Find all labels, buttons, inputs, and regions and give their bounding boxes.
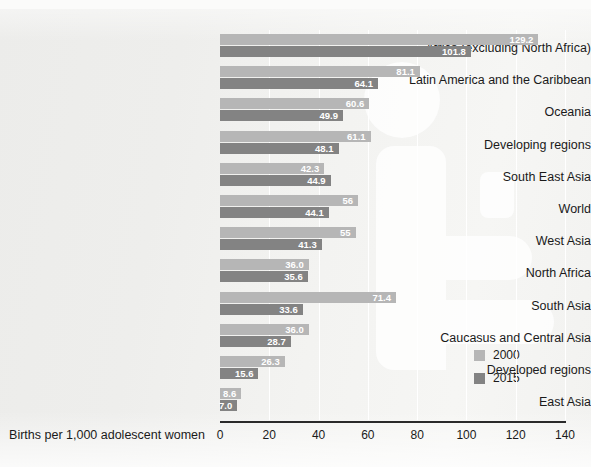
bar-value-label: 44.9 [304, 175, 329, 186]
gridline [466, 30, 467, 420]
x-axis-tick-label: 120 [506, 428, 526, 442]
bar-value-label: 15.6 [232, 368, 257, 379]
bar-value-label: 7.0 [216, 400, 235, 411]
bar-2000 [220, 34, 538, 45]
category-label: West Asia [386, 234, 591, 248]
gridline [417, 30, 418, 420]
bar-value-label: 56 [339, 195, 356, 206]
bar-value-label: 55 [337, 227, 354, 238]
bar-value-label: 8.6 [220, 388, 239, 399]
bar-value-label: 44.1 [302, 207, 327, 218]
x-axis-tick-label: 60 [361, 428, 374, 442]
bar-value-label: 28.7 [264, 336, 289, 347]
bar-value-label: 36.0 [282, 324, 307, 335]
bar-value-label: 26.3 [258, 356, 283, 367]
x-axis-tick-label: 140 [555, 428, 575, 442]
bar-value-label: 71.4 [369, 292, 394, 303]
x-axis-line [220, 421, 566, 423]
category-label: South Asia [386, 299, 591, 313]
category-label: World [386, 202, 591, 216]
bar-value-label: 36.0 [282, 259, 307, 270]
page-top-cut-strip [0, 0, 591, 9]
category-label: South East Asia [386, 170, 591, 184]
bar-2015 [220, 46, 471, 57]
x-axis-tick-label: 20 [263, 428, 276, 442]
category-label: Developing regions [386, 138, 591, 152]
category-label: Caucasus and Central Asia [386, 331, 591, 345]
bar-value-label: 48.1 [312, 143, 337, 154]
legend-item[interactable]: 2000 [474, 348, 520, 362]
bar-2000 [220, 227, 356, 238]
bar-value-label: 49.9 [316, 110, 341, 121]
bar-value-label: 60.6 [343, 98, 368, 109]
x-axis-tick-label: 100 [456, 428, 476, 442]
bar-2000 [220, 195, 358, 206]
x-axis-tick-label: 0 [217, 428, 224, 442]
legend-swatch-icon [474, 350, 485, 361]
gridline [516, 30, 517, 420]
category-label: Developed regions [386, 363, 591, 377]
bar-value-label: 42.3 [298, 163, 323, 174]
bar-value-label: 81.1 [393, 66, 418, 77]
bar-value-label: 33.6 [276, 304, 301, 315]
x-axis-title: Births per 1,000 adolescent women [0, 428, 205, 442]
bar-value-label: 61.1 [344, 131, 369, 142]
bar-value-label: 129.2 [507, 34, 537, 45]
bar-value-label: 35.6 [281, 271, 306, 282]
bar-value-label: 101.8 [439, 46, 469, 57]
bar-value-label: 64.1 [351, 78, 376, 89]
category-label: East Asia [386, 395, 591, 409]
bar-chart: 20002015 Africa (excluding North Africa)… [0, 0, 591, 467]
gridline [565, 30, 566, 420]
bar-2000 [220, 66, 420, 77]
x-axis-tick-label: 80 [410, 428, 423, 442]
category-label: North Africa [386, 266, 591, 280]
bar-value-label: 41.3 [295, 239, 320, 250]
x-axis-tick-label: 40 [312, 428, 325, 442]
category-label: Oceania [386, 105, 591, 119]
